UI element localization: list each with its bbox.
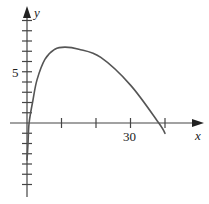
x-axis-arrow-icon [192,119,204,127]
x-axis-label: x [194,128,201,143]
function-curve [27,47,165,160]
y-axis-arrow-icon [23,6,31,18]
y-tick-label-5: 5 [12,65,19,80]
x-tick-label-30: 30 [123,129,136,144]
y-axis-label: y [32,5,40,20]
function-graph: y x 30 5 [0,0,209,204]
